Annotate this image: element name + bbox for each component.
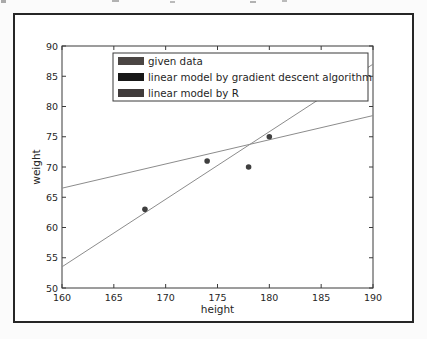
data-point	[204, 158, 210, 164]
y-tick-label: 65	[46, 192, 58, 203]
x-tick-label: 185	[312, 292, 330, 303]
y-tick-label: 80	[46, 101, 58, 112]
x-tick-label: 160	[53, 292, 71, 303]
figure-page: 160165170175180185190505560657075808590g…	[0, 0, 427, 339]
scan-artifact	[250, 1, 256, 3]
x-tick-label: 175	[208, 292, 226, 303]
y-tick-label: 75	[46, 131, 58, 142]
scan-artifact	[170, 1, 175, 3]
data-point	[246, 164, 252, 170]
scan-artifacts	[1, 0, 287, 3]
x-axis-label: height	[201, 303, 234, 315]
x-tick-label: 165	[105, 292, 123, 303]
y-tick-label: 60	[46, 222, 58, 233]
y-tick-label: 55	[46, 252, 58, 263]
x-tick-label: 190	[364, 292, 382, 303]
legend-swatch	[118, 57, 144, 65]
y-tick-label: 50	[46, 283, 58, 294]
data-point	[267, 134, 273, 140]
scan-artifact	[112, 0, 119, 2]
data-point	[142, 207, 148, 213]
y-axis-label: weight	[30, 149, 42, 184]
y-tick-label: 90	[46, 41, 58, 52]
scan-artifact	[1, 0, 6, 3]
y-tick-label: 85	[46, 71, 58, 82]
y-tick-label: 70	[46, 162, 58, 173]
legend-label: linear model by R	[148, 87, 239, 99]
x-tick-label: 180	[260, 292, 278, 303]
chart: 160165170175180185190505560657075808590g…	[0, 0, 427, 339]
legend-label: given data	[148, 55, 203, 67]
legend-label: linear model by gradient descent algorit…	[148, 71, 372, 83]
x-tick-label: 170	[157, 292, 175, 303]
plot-area: 160165170175180185190505560657075808590g…	[46, 41, 382, 304]
scan-artifact	[282, 0, 287, 2]
legend-swatch	[118, 89, 144, 97]
legend-swatch	[118, 73, 144, 81]
